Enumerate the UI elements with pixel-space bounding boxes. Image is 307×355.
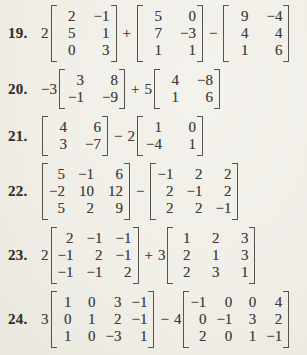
matrix-cell: −3 [178, 25, 196, 42]
matrix-grid: 38−1−9 [66, 72, 118, 106]
matrix-cell: −1 [116, 230, 132, 247]
matrix: 2−15103 [51, 5, 117, 62]
matrix-grid: 507−311 [144, 8, 196, 59]
matrix-cell: −9 [100, 89, 118, 106]
matrix-cell: −1 [92, 8, 110, 25]
matrix-cell: 6 [264, 42, 282, 59]
matrix-grid: 10−41 [144, 119, 196, 153]
scalar-coefficient: 2 [41, 247, 49, 264]
matrix-cell: 0 [216, 328, 232, 345]
matrix-grid: 5−16−21012529 [49, 166, 123, 217]
matrix-grid: 2−15103 [58, 8, 110, 59]
problem-row: 23.22−1−1−12−1−1−12+3123213231 [8, 227, 305, 284]
matrix: 5−16−21012529 [42, 163, 130, 220]
matrix-cell: 1 [232, 264, 248, 281]
matrix-cell: 4 [161, 72, 179, 89]
matrix-cell: −1 [78, 166, 94, 183]
scalar-coefficient: 5 [144, 81, 152, 98]
textbook-page: 19.22−15103+507−311−9−4441620.−338−1−9+5… [0, 0, 307, 355]
matrix-cell: 1 [144, 42, 162, 59]
matrix-cell: 9 [230, 8, 248, 25]
matrix-cell: 4 [49, 119, 67, 136]
matrix-cell: 1 [58, 294, 72, 311]
matrix-cell: 2 [87, 247, 103, 264]
operator: − [209, 25, 217, 42]
matrix-grid: 123213231 [174, 230, 248, 281]
matrix-cell: −1 [186, 183, 202, 200]
matrix-cell: 2 [157, 183, 173, 200]
matrix-grid: −10040−132201−1 [190, 294, 282, 345]
matrix-cell: 5 [49, 200, 65, 217]
matrix-cell: 8 [100, 72, 118, 89]
matrix-cell: −1 [266, 328, 282, 345]
matrix-cell: 2 [186, 200, 202, 217]
operator: + [123, 25, 131, 42]
matrix-cell: 1 [144, 119, 162, 136]
matrix-cell: 2 [116, 264, 132, 281]
matrix-grid: 103−1012−110−31 [58, 294, 148, 345]
matrix-cell: 1 [178, 136, 196, 153]
problem-number: 24. [8, 311, 35, 328]
matrix-grid: 2−1−1−12−1−1−12 [58, 230, 132, 281]
matrix-cell: 2 [157, 200, 173, 217]
matrix: 38−1−9 [59, 69, 125, 109]
problem-number: 23. [8, 247, 35, 264]
matrix-cell: 7 [144, 25, 162, 42]
matrix-cell: −1 [215, 200, 231, 217]
matrix-cell: 0 [190, 311, 206, 328]
matrix-grid: 4−816 [161, 72, 213, 106]
matrix-cell: 1 [131, 328, 147, 345]
problem-row: 19.22−15103+507−311−9−44416 [8, 5, 305, 62]
problem-list: 19.22−15103+507−311−9−4441620.−338−1−9+5… [8, 5, 305, 348]
matrix: −10040−132201−1 [183, 291, 289, 348]
matrix-cell: 2 [266, 311, 282, 328]
matrix-cell: −4 [144, 136, 162, 153]
matrix-cell: 3 [92, 42, 110, 59]
matrix: 123213231 [167, 227, 255, 284]
problem-number: 22. [8, 183, 35, 200]
matrix-cell: −1 [131, 311, 147, 328]
matrix-cell: 1 [161, 89, 179, 106]
scalar-coefficient: 4 [174, 311, 182, 328]
matrix-cell: 3 [49, 136, 67, 153]
matrix-cell: −1 [58, 247, 74, 264]
matrix-cell: 5 [58, 25, 76, 42]
matrix-cell: −8 [195, 72, 213, 89]
matrix-cell: 5 [49, 166, 65, 183]
matrix: −1222−1222−1 [150, 163, 238, 220]
matrix-cell: 3 [232, 247, 248, 264]
matrix-cell: −1 [58, 264, 74, 281]
matrix: 507−311 [137, 5, 203, 62]
matrix-cell: 1 [242, 328, 256, 345]
matrix-cell: 5 [144, 8, 162, 25]
matrix-grid: −1222−1222−1 [157, 166, 231, 217]
matrix-cell: −1 [157, 166, 173, 183]
matrix-cell: 2 [58, 230, 74, 247]
matrix-cell: 3 [66, 72, 84, 89]
matrix-cell: 2 [186, 166, 202, 183]
matrix-cell: 9 [107, 200, 123, 217]
matrix-cell: 1 [230, 42, 248, 59]
matrix-cell: −1 [216, 311, 232, 328]
matrix-cell: 3 [106, 294, 122, 311]
operator: − [114, 128, 122, 145]
scalar-coefficient: 3 [158, 247, 166, 264]
matrix-cell: 2 [215, 166, 231, 183]
operator: − [160, 311, 168, 328]
matrix: 103−1012−110−31 [51, 291, 155, 348]
matrix-cell: 3 [242, 311, 256, 328]
problem-number: 21. [8, 128, 35, 145]
matrix-cell: −1 [131, 294, 147, 311]
matrix-cell: −1 [87, 264, 103, 281]
matrix-cell: 0 [58, 311, 72, 328]
matrix-cell: 12 [107, 183, 123, 200]
problem-row: 22.5−16−21012529−−1222−1222−1 [8, 163, 305, 220]
matrix-cell: 1 [92, 25, 110, 42]
matrix-cell: 1 [174, 230, 190, 247]
matrix: 9−44416 [223, 5, 289, 62]
operator: + [145, 247, 153, 264]
problem-row: 20.−338−1−9+54−816 [8, 69, 305, 109]
operator: + [131, 81, 139, 98]
problem-number: 20. [8, 81, 35, 98]
matrix-grid: 9−44416 [230, 8, 282, 59]
